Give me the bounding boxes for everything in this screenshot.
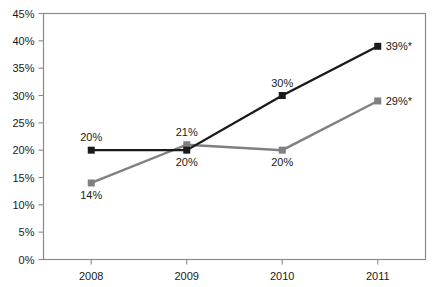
data-point-label: 39%*: [386, 40, 413, 52]
data-point-marker: [279, 147, 286, 154]
y-axis-tick-label: 0%: [19, 254, 35, 266]
y-axis-tick-label: 45%: [12, 8, 34, 20]
x-axis-tick-label: 2011: [366, 270, 390, 282]
data-point-label: 20%: [80, 131, 102, 143]
y-axis-tick-label: 10%: [12, 199, 34, 211]
data-point-label: 20%: [176, 156, 198, 168]
line-chart: 0%5%10%15%20%25%30%35%40%45%200820092010…: [0, 0, 435, 287]
data-point-label: 30%: [271, 77, 293, 89]
data-point-marker: [183, 147, 190, 154]
y-axis-tick-label: 5%: [19, 226, 35, 238]
data-point-label: 29%*: [386, 95, 413, 107]
series-line-black-series: [91, 46, 378, 150]
y-axis-tick-label: 35%: [12, 62, 34, 74]
data-point-marker: [374, 43, 381, 50]
y-axis-tick-label: 25%: [12, 117, 34, 129]
chart-canvas: 0%5%10%15%20%25%30%35%40%45%200820092010…: [0, 0, 435, 287]
x-axis-tick-label: 2009: [175, 270, 199, 282]
data-point-label: 20%: [271, 156, 293, 168]
data-point-label: 14%: [80, 189, 102, 201]
x-axis-tick-label: 2008: [79, 270, 103, 282]
data-point-marker: [374, 97, 381, 104]
data-point-marker: [88, 179, 95, 186]
y-axis-tick-label: 40%: [12, 35, 34, 47]
data-point-label: 21%: [176, 126, 198, 138]
series-line-gray-series: [91, 101, 378, 183]
data-point-marker: [279, 92, 286, 99]
y-axis-tick-label: 15%: [12, 172, 34, 184]
y-axis-tick-label: 30%: [12, 90, 34, 102]
y-axis-tick-label: 20%: [12, 144, 34, 156]
x-axis-tick-label: 2010: [270, 270, 294, 282]
data-point-marker: [88, 147, 95, 154]
